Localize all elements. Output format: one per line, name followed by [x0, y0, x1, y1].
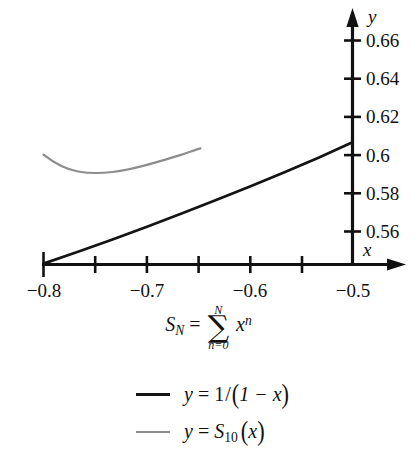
y-tick-label-0: 0.66 [366, 31, 399, 50]
sum-lower-limit: n=0 [208, 339, 228, 351]
legend1-open-paren: ( [232, 378, 239, 410]
legend-item-closed-form[interactable]: y = 1/(1 − x) [0, 381, 417, 407]
x-tick-label-1: −0.7 [111, 281, 183, 300]
formula-equals: = [189, 313, 200, 335]
y-axis-label: y [368, 7, 376, 26]
legend2-open-paren: ( [241, 415, 248, 447]
legend2-equals: = [198, 420, 209, 442]
legend1-y: y [184, 383, 193, 405]
formula-lhs-base: S [165, 313, 175, 335]
legend-swatch-partial-sum [136, 431, 170, 433]
sigma-icon: ∑ [208, 314, 229, 340]
legend2-s-subscript: 10 [224, 430, 238, 445]
legend-swatch-closed-form [136, 393, 170, 396]
legend2-y: y [184, 420, 193, 442]
y-tick-label-1: 0.64 [366, 69, 399, 88]
legend-label-closed-form: y = 1/(1 − x) [184, 381, 289, 407]
curve-exact [44, 142, 353, 263]
x-tick-label-2: −0.6 [214, 281, 286, 300]
legend2-close-paren: ) [257, 415, 264, 447]
figure-container: 0.66 0.64 0.62 0.6 0.58 0.56 −0.8 −0.7 −… [0, 0, 417, 459]
legend-item-partial-sum[interactable]: y = S10(x) [0, 418, 417, 446]
legend1-close-paren: ) [282, 378, 289, 410]
x-tick-label-3: −0.5 [317, 281, 389, 300]
x-tick-label-0: −0.8 [8, 281, 80, 300]
y-tick-label-2: 0.62 [366, 107, 399, 126]
legend2-s-base: S [214, 420, 224, 442]
y-tick-label-3: 0.6 [366, 146, 390, 165]
legend1-equals: = [198, 383, 209, 405]
y-tick-label-4: 0.58 [366, 184, 399, 203]
y-axis-arrowhead [346, 8, 358, 27]
partial-sum-formula: SN = N ∑ n=0 xn [0, 303, 417, 350]
formula-term-exponent: n [245, 313, 252, 328]
x-axis-label: x [363, 240, 371, 259]
summation-operator: N ∑ n=0 [208, 304, 229, 351]
curve-partial-sum [44, 148, 201, 173]
formula-lhs-subscript: N [175, 323, 184, 338]
x-axis-arrowhead [387, 258, 406, 270]
legend1-numerator: 1 [214, 383, 224, 405]
legend-label-partial-sum: y = S10(x) [184, 418, 265, 446]
legend1-slash: / [224, 383, 232, 406]
formula-term-base: x [236, 313, 245, 335]
plot-area [0, 0, 417, 300]
legend2-arg: x [248, 420, 257, 442]
legend1-inner: 1 − x [239, 383, 281, 405]
